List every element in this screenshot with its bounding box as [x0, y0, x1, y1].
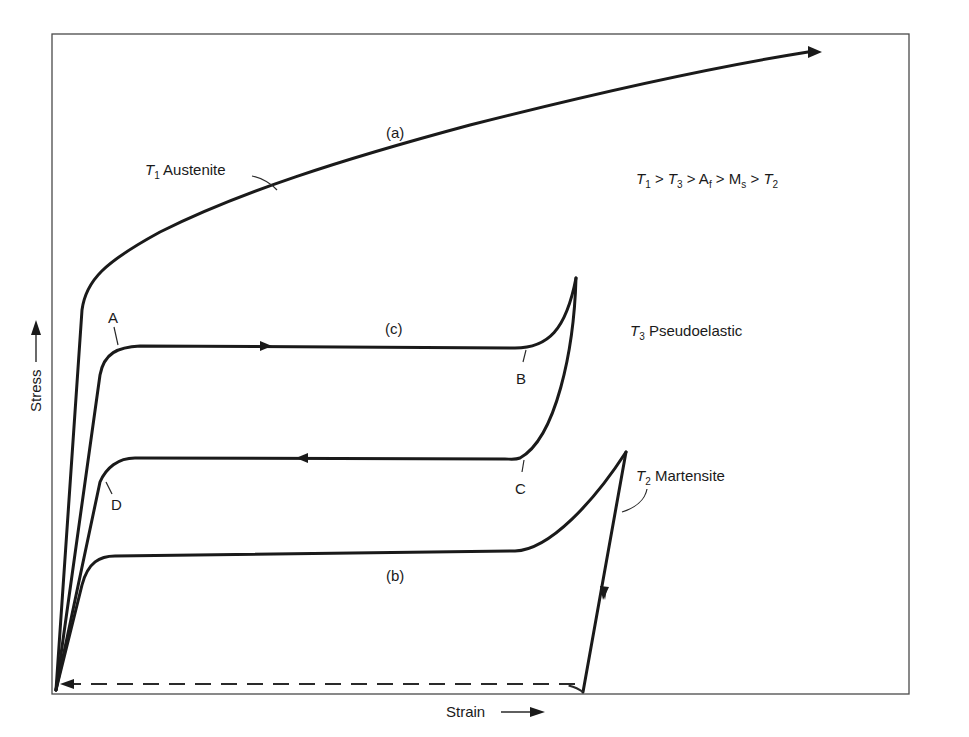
point-c-label: C	[515, 480, 526, 497]
curve-c-unloading	[56, 278, 576, 690]
curve-a-label: (a)	[386, 124, 404, 141]
leader-point-c	[522, 460, 524, 472]
leader-point-d	[106, 482, 112, 494]
x-axis-arrowhead-icon	[530, 707, 545, 717]
curve-b-unloading	[583, 452, 626, 692]
curve-c-loading	[56, 278, 576, 690]
plot-frame	[52, 34, 909, 694]
stress-strain-diagram: T1 > T3 > Af > Ms > T2 T1 Austenite T3 P…	[0, 0, 969, 737]
curve-c-load-arrow-icon	[260, 341, 272, 351]
leader-point-b	[523, 350, 526, 362]
curve-b-label: (b)	[386, 567, 404, 584]
curve-a-end-arrow-icon	[808, 46, 822, 58]
condition-label: T1 > T3 > Af > Ms > T2	[636, 170, 779, 190]
curve-c-unload-arrow-icon	[296, 453, 308, 463]
y-axis-arrowhead-icon	[31, 320, 41, 335]
curve-b-martensite	[56, 452, 626, 690]
strain-recovery-dashed-curve	[560, 684, 583, 692]
leader-point-a	[114, 327, 118, 345]
curve-a-austenite	[56, 52, 808, 690]
pseudoelastic-label: T3 Pseudoelastic	[630, 322, 743, 342]
point-a-label: A	[108, 309, 118, 326]
martensite-label: T2 Martensite	[636, 467, 725, 487]
recovery-arrow-icon	[60, 679, 74, 689]
x-axis-label: Strain	[446, 703, 485, 720]
austenite-label: T1 Austenite	[145, 161, 226, 181]
y-axis-label: Stress	[27, 369, 44, 412]
point-b-label: B	[516, 370, 526, 387]
leader-martensite	[622, 489, 647, 512]
curve-c-label: (c)	[385, 320, 403, 337]
point-d-label: D	[111, 496, 122, 513]
